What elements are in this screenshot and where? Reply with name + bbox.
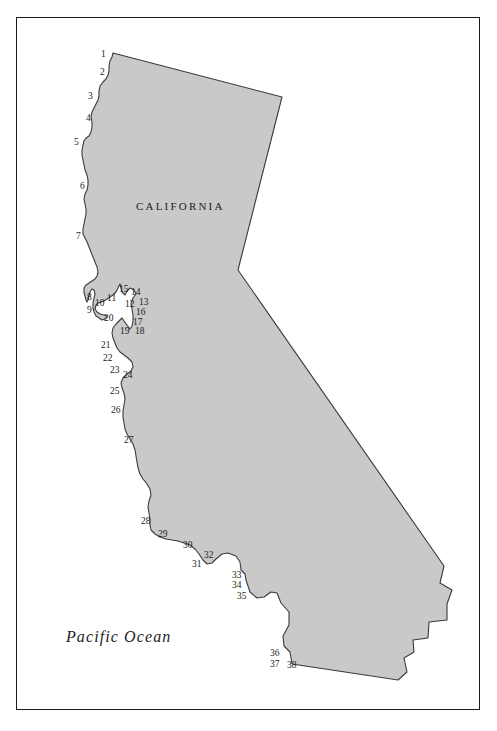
- coastal-point-label-19: 19: [120, 327, 130, 337]
- state-name-label: CALIFORNIA: [136, 201, 225, 212]
- coastal-point-label-29: 29: [158, 530, 168, 540]
- coastal-point-label-1: 1: [101, 50, 106, 60]
- coastal-point-label-26: 26: [111, 406, 121, 416]
- coastal-point-label-10: 10: [95, 299, 105, 309]
- coastal-point-label-11: 11: [107, 294, 116, 304]
- coastal-point-label-28: 28: [141, 517, 151, 527]
- coastal-point-label-4: 4: [86, 114, 91, 124]
- coastal-point-label-8: 8: [87, 293, 92, 303]
- coastal-point-label-6: 6: [80, 182, 85, 192]
- coastal-point-label-34: 34: [232, 581, 242, 591]
- coastal-point-label-5: 5: [74, 138, 79, 148]
- map-page: CALIFORNIA Pacific Ocean 123456789101112…: [0, 0, 497, 731]
- coastal-point-label-18: 18: [135, 327, 145, 337]
- coastal-point-label-38: 38: [287, 661, 297, 671]
- coastal-point-label-14: 14: [131, 288, 141, 298]
- coastal-point-label-31: 31: [192, 560, 202, 570]
- coastal-point-label-27: 27: [124, 436, 134, 446]
- coastal-point-label-7: 7: [76, 232, 81, 242]
- ocean-name-label: Pacific Ocean: [66, 629, 171, 645]
- coastal-point-label-20: 20: [104, 314, 114, 324]
- coastal-point-label-23: 23: [110, 366, 120, 376]
- coastal-point-label-37: 37: [270, 660, 280, 670]
- coastal-point-label-35: 35: [237, 592, 247, 602]
- coastal-point-label-12: 12: [125, 300, 135, 310]
- coastal-point-label-21: 21: [101, 341, 111, 351]
- coastal-point-label-30: 30: [183, 541, 193, 551]
- coastal-point-label-2: 2: [100, 68, 105, 78]
- coastal-point-label-9: 9: [87, 306, 92, 316]
- coastal-point-label-3: 3: [88, 92, 93, 102]
- coastal-point-label-25: 25: [110, 387, 120, 397]
- coastal-point-label-24: 24: [123, 371, 133, 381]
- coastal-point-label-22: 22: [103, 354, 113, 364]
- california-state-shape: [82, 53, 452, 680]
- coastal-point-label-36: 36: [270, 649, 280, 659]
- coastal-point-label-32: 32: [204, 551, 214, 561]
- california-map-graphic: [0, 0, 497, 731]
- state-polygon-group: [82, 53, 452, 680]
- coastal-point-label-15: 15: [119, 285, 129, 295]
